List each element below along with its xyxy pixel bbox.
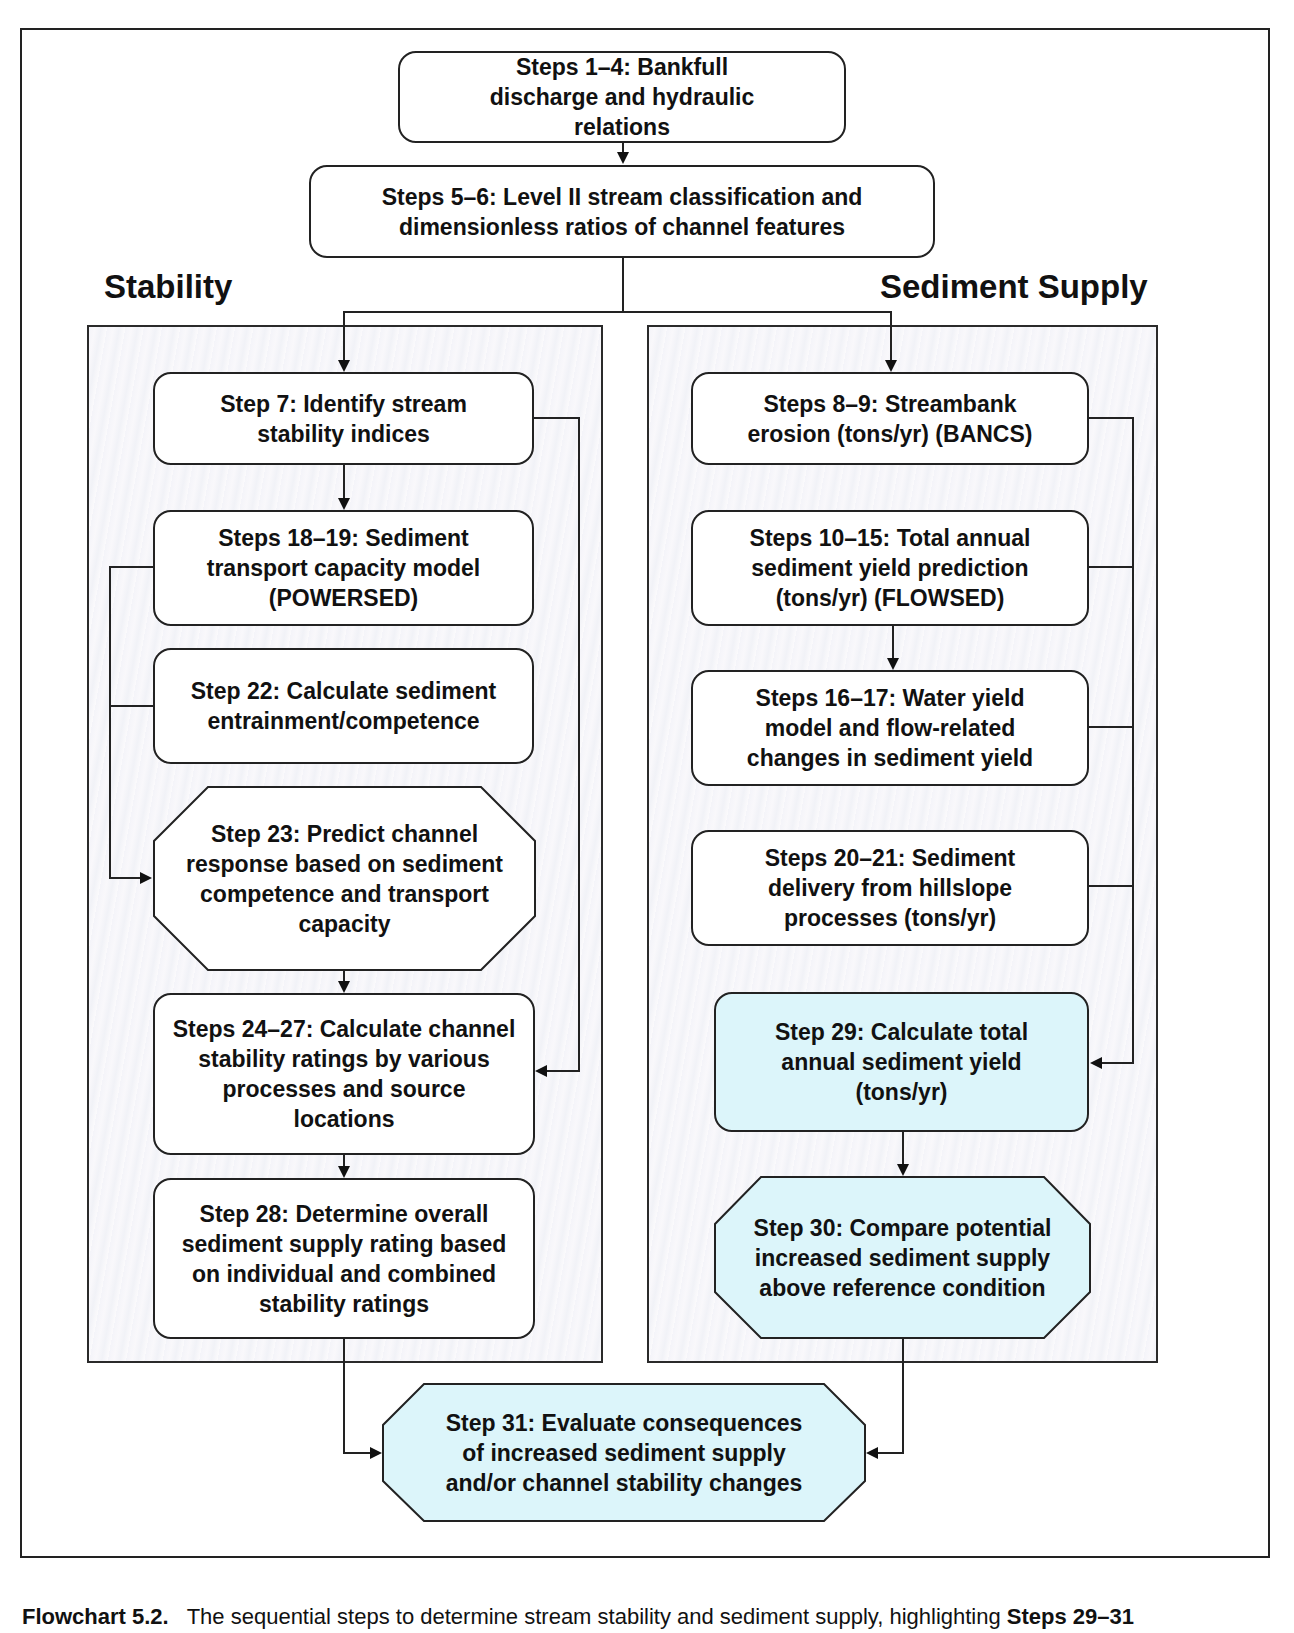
step-5-6-box: Steps 5–6: Level II stream classificatio… — [309, 165, 935, 258]
caption-prefix: Flowchart 5.2. — [22, 1604, 169, 1629]
step-29-box: Step 29: Calculate total annual sediment… — [714, 992, 1089, 1132]
step-16-17-box: Steps 16–17: Water yield model and flow-… — [691, 670, 1089, 786]
step-23-label: Step 23: Predict channel response based … — [153, 786, 536, 971]
step-1-4-box: Steps 1–4: Bankfull discharge and hydrau… — [398, 51, 846, 143]
step-23-octagon: Step 23: Predict channel response based … — [153, 786, 536, 971]
step-22-box: Step 22: Calculate sediment entrainment/… — [153, 648, 534, 764]
step-30-label: Step 30: Compare potential increased sed… — [714, 1176, 1091, 1339]
step-20-21-box: Steps 20–21: Sediment delivery from hill… — [691, 830, 1089, 946]
step-31-label: Step 31: Evaluate consequences of increa… — [382, 1383, 866, 1522]
step-28-box: Step 28: Determine overall sediment supp… — [153, 1178, 535, 1339]
step-8-9-box: Steps 8–9: Streambank erosion (tons/yr) … — [691, 372, 1089, 465]
step-24-27-box: Steps 24–27: Calculate channel stability… — [153, 993, 535, 1155]
caption-highlight: Steps 29–31 — [1007, 1604, 1134, 1629]
step-31-octagon: Step 31: Evaluate consequences of increa… — [382, 1383, 866, 1522]
step-18-19-box: Steps 18–19: Sediment transport capacity… — [153, 510, 534, 626]
figure-caption: Flowchart 5.2. The sequential steps to d… — [22, 1604, 1134, 1630]
caption-text: The sequential steps to determine stream… — [187, 1604, 1001, 1629]
step-7-box: Step 7: Identify stream stability indice… — [153, 372, 534, 465]
step-10-15-box: Steps 10–15: Total annual sediment yield… — [691, 510, 1089, 626]
step-30-octagon: Step 30: Compare potential increased sed… — [714, 1176, 1091, 1339]
